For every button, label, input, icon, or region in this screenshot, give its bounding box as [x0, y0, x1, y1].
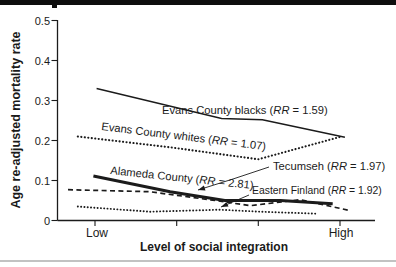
series-label-eastern-finland: Eastern Finland (RR = 1.92)	[252, 185, 382, 196]
x-tick-marks	[95, 221, 340, 227]
leader-arrowhead-tecumseh	[198, 185, 206, 190]
series-line-eastern-finland	[78, 207, 318, 214]
x-tick-labels: Low High	[86, 226, 353, 240]
y-tick-label-0p5: 0.5	[35, 15, 50, 27]
plot-area: Evans County blacks (RR = 1.59)Evans Cou…	[68, 89, 386, 214]
x-axis-title: Level of social integration	[140, 240, 288, 254]
series-label-evans-county-whites: Evans County whites (RR = 1.07)	[101, 120, 267, 152]
y-tick-label-0p1: 0.1	[35, 175, 50, 187]
y-axis-title: Age re-adjusted mortality rate	[9, 31, 23, 208]
y-tick-labels: 0 0.1 0.2 0.3 0.4 0.5	[35, 15, 50, 227]
bottom-rule	[0, 260, 396, 262]
mortality-line-chart: 0 0.1 0.2 0.3 0.4 0.5 Low High Level of …	[0, 0, 396, 267]
series-label-alameda-county: Alameda County (RR = 2.81)	[110, 164, 255, 191]
series-label-evans-county-blacks: Evans County blacks (RR = 1.59)	[162, 104, 328, 116]
y-tick-label-0p3: 0.3	[35, 95, 50, 107]
y-tick-label-0: 0	[44, 215, 50, 227]
series-label-tecumseh: Tecumseh (RR = 1.97)	[273, 160, 386, 172]
x-tick-label-low: Low	[86, 226, 108, 240]
y-tick-marks	[52, 21, 58, 221]
y-tick-label-0p2: 0.2	[35, 135, 50, 147]
x-tick-label-high: High	[329, 226, 354, 240]
figure-page: 0 0.1 0.2 0.3 0.4 0.5 Low High Level of …	[0, 0, 396, 267]
y-tick-label-0p4: 0.4	[35, 55, 50, 67]
